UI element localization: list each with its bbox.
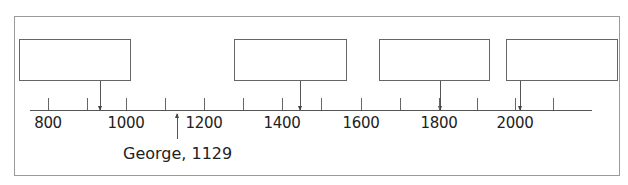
axis-tick bbox=[126, 98, 127, 110]
pointer-arrow-4 bbox=[520, 81, 521, 110]
axis-tick bbox=[204, 98, 205, 110]
pointer-arrow-3 bbox=[440, 81, 441, 110]
answer-box-2[interactable] bbox=[234, 39, 347, 81]
axis-label-1600: 1600 bbox=[343, 114, 380, 132]
axis-label-1200: 1200 bbox=[186, 114, 223, 132]
annotation-arrow bbox=[177, 114, 178, 139]
pointer-arrow-2 bbox=[300, 81, 301, 110]
axis-label-2000: 2000 bbox=[497, 114, 534, 132]
answer-box-4[interactable] bbox=[506, 39, 618, 81]
annotation-label: George, 1129 bbox=[123, 144, 232, 163]
axis-tick bbox=[165, 98, 166, 110]
axis-tick bbox=[282, 98, 283, 110]
axis-tick bbox=[515, 98, 516, 110]
axis-tick bbox=[553, 98, 554, 110]
axis-tick bbox=[321, 98, 322, 110]
axis-tick bbox=[87, 98, 88, 110]
axis-tick bbox=[48, 98, 49, 110]
axis-tick bbox=[361, 98, 362, 110]
axis-tick bbox=[400, 98, 401, 110]
axis-label-1400: 1400 bbox=[264, 114, 301, 132]
axis-tick bbox=[243, 98, 244, 110]
axis-label-800: 800 bbox=[34, 114, 62, 132]
timeline-axis bbox=[30, 110, 592, 111]
answer-box-1[interactable] bbox=[19, 39, 131, 81]
pointer-arrow-1 bbox=[100, 81, 101, 110]
axis-tick bbox=[477, 98, 478, 110]
axis-label-1800: 1800 bbox=[421, 114, 458, 132]
axis-tick bbox=[439, 98, 440, 110]
answer-box-3[interactable] bbox=[379, 39, 490, 81]
axis-label-1000: 1000 bbox=[108, 114, 145, 132]
